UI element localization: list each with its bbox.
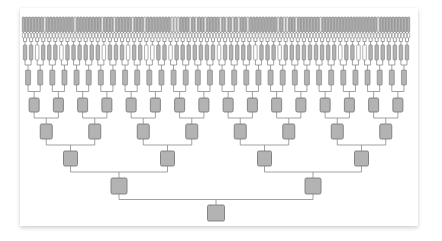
tree-node — [53, 17, 55, 32]
tree-node — [238, 17, 240, 32]
tree-node — [68, 33, 70, 38]
tree-node — [193, 45, 197, 60]
tree-node — [331, 124, 343, 139]
tree-node — [292, 70, 297, 85]
tree-node — [110, 17, 112, 32]
tree-node — [329, 70, 334, 85]
tree-node — [201, 33, 203, 38]
tree-node — [322, 17, 324, 32]
tree-node — [290, 45, 294, 60]
tree-node — [362, 33, 364, 38]
tree-node — [232, 70, 237, 85]
tree-node — [283, 17, 285, 32]
tree-node — [77, 17, 79, 32]
tree-node — [280, 33, 282, 38]
tree-node — [89, 33, 91, 38]
tree-node — [110, 70, 115, 85]
tree-node — [113, 33, 115, 38]
tree-node — [71, 17, 73, 32]
tree-node — [258, 151, 272, 166]
tree-node — [328, 33, 330, 38]
tree-node — [37, 17, 39, 32]
tree-node — [219, 33, 221, 38]
tree-node — [150, 17, 152, 32]
tree-node — [159, 33, 161, 38]
tree-node — [314, 45, 318, 60]
tree-node — [62, 17, 64, 32]
tree-node — [74, 17, 76, 32]
tree-node — [250, 17, 252, 32]
tree-node — [344, 17, 346, 32]
tree-node — [34, 33, 36, 38]
tree-node — [375, 45, 379, 60]
tree-node — [254, 45, 258, 60]
tree-node — [371, 33, 373, 38]
tree-node — [241, 33, 243, 38]
tree-node — [119, 33, 121, 38]
tree-node — [123, 70, 128, 85]
tree-node — [351, 45, 355, 60]
tree-node — [151, 45, 155, 60]
tree-node — [71, 33, 73, 38]
tree-node — [72, 45, 76, 60]
tree-node — [381, 45, 385, 60]
tree-node — [369, 45, 373, 60]
tree-node — [289, 17, 291, 32]
tree-node — [320, 45, 324, 60]
tree-node — [44, 17, 46, 32]
tree-node — [44, 33, 46, 38]
tree-node — [125, 17, 127, 32]
tree-node — [180, 33, 182, 38]
tree-node — [159, 70, 164, 85]
tree-node — [144, 33, 146, 38]
tree-node — [383, 33, 385, 38]
tree-node — [280, 70, 285, 85]
tree-node — [283, 124, 295, 139]
tree-node — [131, 33, 133, 38]
tree-node — [80, 33, 82, 38]
tree-node — [395, 33, 397, 38]
tree-node — [389, 33, 391, 38]
tree-node — [126, 45, 130, 60]
tree-node — [313, 33, 315, 38]
tree-node — [122, 17, 124, 32]
tree-node — [319, 17, 321, 32]
tree-node — [283, 33, 285, 38]
tree-node — [120, 45, 124, 60]
tree-node — [168, 17, 170, 32]
tree-node — [386, 17, 388, 32]
tree-node — [64, 151, 78, 166]
tree-node — [304, 17, 306, 32]
tree-node — [310, 17, 312, 32]
tree-node — [50, 70, 55, 85]
tree-node — [380, 124, 392, 139]
tree-node — [304, 33, 306, 38]
tree-nodes — [22, 17, 409, 221]
tree-node — [399, 45, 403, 60]
tree-node — [228, 17, 230, 32]
tree-node — [89, 17, 91, 32]
tree-node — [274, 33, 276, 38]
tree-node — [195, 17, 197, 32]
tree-node — [332, 17, 334, 32]
tree-node — [22, 33, 24, 38]
tree-node — [189, 17, 191, 32]
tree-node — [401, 17, 403, 32]
tree-node — [56, 17, 58, 32]
tree-node — [198, 33, 200, 38]
tree-node — [131, 17, 133, 32]
tree-node — [177, 17, 179, 32]
tree-node — [83, 17, 85, 32]
tree-node — [253, 17, 255, 32]
tree-node — [59, 17, 61, 32]
tree-node — [28, 17, 30, 32]
tree-node — [53, 98, 63, 112]
tree-node — [307, 17, 309, 32]
tree-node — [225, 33, 227, 38]
tree-node — [332, 45, 336, 60]
tree-node — [40, 124, 52, 139]
tree-node — [41, 45, 45, 60]
tree-node — [389, 17, 391, 32]
tree-node — [353, 17, 355, 32]
tree-node — [272, 45, 276, 60]
